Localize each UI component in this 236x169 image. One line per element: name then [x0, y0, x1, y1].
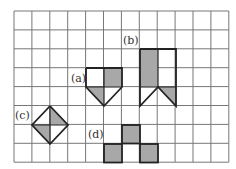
grid-diagram [0, 0, 236, 169]
shaded-cell-d [122, 125, 140, 144]
shaded-region-b [140, 49, 158, 87]
label-c: (c) [15, 110, 30, 121]
shaded-region-a [104, 68, 122, 87]
shaded-cell-d [104, 144, 122, 163]
label-b: (b) [123, 35, 139, 46]
label-a: (a) [71, 73, 86, 84]
label-d: (d) [88, 129, 104, 140]
shaded-cell-d [140, 144, 158, 163]
